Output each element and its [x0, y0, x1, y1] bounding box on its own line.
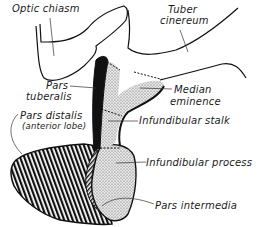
label-median-eminence-line2: eminence [170, 96, 221, 107]
label-infundibular-stalk: Infundibular stalk [139, 115, 230, 126]
label-pars-intermedia: Pars intermedia [155, 200, 237, 211]
ventricle-floor [160, 64, 246, 80]
leader-tuber-cinereum [180, 30, 188, 52]
label-median-eminence-line1: Median [174, 84, 212, 95]
leader-pars-tuberalis [70, 86, 96, 88]
label-tuber-cinereum-line2: cinereum [160, 15, 209, 26]
label-tuber-cinereum-line1: Tuber [168, 4, 197, 15]
label-pars-tuberalis-line2: tuberalis [26, 91, 72, 102]
boundary-dashed-median [134, 72, 164, 80]
label-optic-chiasm: Optic chiasm [12, 3, 80, 14]
label-pars-tuberalis-line1: Pars [46, 80, 68, 91]
label-pars-distalis-line1: Pars distalis [20, 110, 82, 121]
label-infundibular-process: Infundibular process [146, 157, 252, 168]
infundibular-process-shape [92, 145, 136, 221]
label-pars-distalis-line2: (anterior lobe) [22, 121, 86, 132]
